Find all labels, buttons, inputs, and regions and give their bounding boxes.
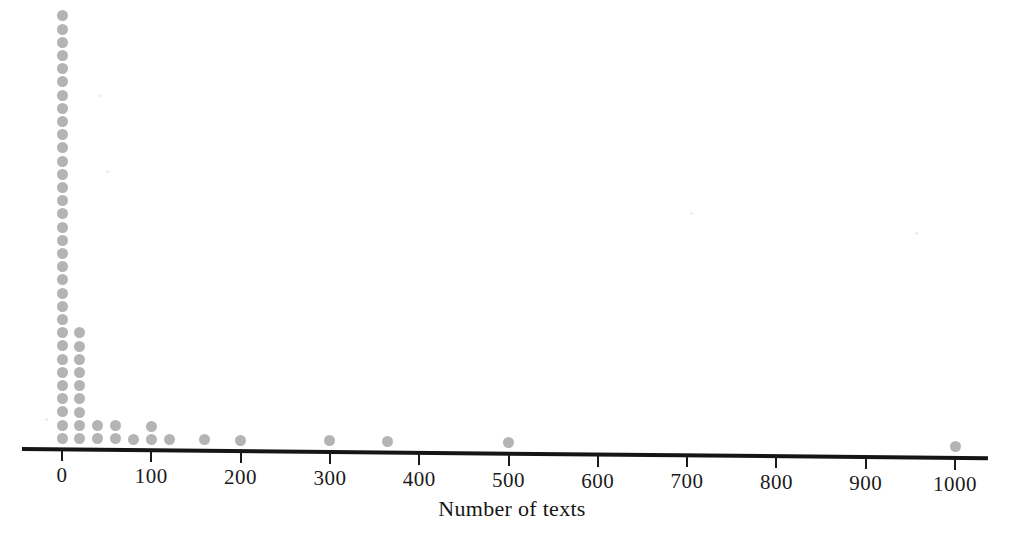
dotplot-figure: 01002003004005006007008009001000 Number … <box>0 0 1011 554</box>
scan-speck <box>690 212 693 215</box>
dot <box>57 103 68 114</box>
dot <box>235 435 246 446</box>
dot <box>110 420 121 431</box>
x-axis-tick <box>954 458 956 470</box>
dot <box>57 90 68 101</box>
x-axis-tick <box>240 451 242 463</box>
dot <box>382 436 393 447</box>
dot <box>74 327 85 338</box>
dot <box>57 420 68 431</box>
dot <box>57 222 68 233</box>
x-axis-tick-label: 200 <box>224 465 257 490</box>
x-axis-line <box>22 447 988 460</box>
dot <box>74 367 85 378</box>
x-axis-tick <box>418 453 420 465</box>
x-axis-tick <box>329 452 331 464</box>
dot <box>57 340 68 351</box>
scan-speck <box>106 170 109 173</box>
dot <box>57 116 68 127</box>
dot <box>57 10 68 21</box>
x-axis-tick-label: 100 <box>135 464 168 489</box>
scan-speck <box>45 418 48 421</box>
dot <box>57 50 68 61</box>
dot <box>57 63 68 74</box>
dot <box>199 434 210 445</box>
dot <box>57 156 68 167</box>
x-axis-tick-label: 300 <box>313 466 346 491</box>
scan-speck <box>915 232 918 235</box>
x-axis-tick <box>150 450 152 462</box>
x-axis-tick <box>686 455 688 467</box>
dot <box>128 434 139 445</box>
x-axis-tick-label: 1000 <box>933 472 977 497</box>
dot <box>324 435 335 446</box>
x-axis-tick-label: 800 <box>760 470 793 495</box>
x-axis-tick-label: 0 <box>57 463 68 488</box>
scan-speck <box>99 94 102 97</box>
dot <box>74 407 85 418</box>
dot <box>74 354 85 365</box>
dot <box>950 441 961 452</box>
x-axis-tick <box>865 457 867 469</box>
dot <box>57 327 68 338</box>
x-axis-tick <box>61 449 63 461</box>
dot <box>57 261 68 272</box>
dot <box>92 420 103 431</box>
dot <box>57 367 68 378</box>
dot <box>57 380 68 391</box>
dot <box>57 169 68 180</box>
x-axis-tick <box>775 456 777 468</box>
x-axis-tick-label: 700 <box>671 469 704 494</box>
dot <box>74 393 85 404</box>
dot <box>146 421 157 432</box>
dot <box>57 142 68 153</box>
dot <box>503 437 514 448</box>
dot <box>74 341 85 352</box>
dot <box>57 235 68 246</box>
dot <box>57 24 68 35</box>
dot <box>74 380 85 391</box>
dot <box>74 433 85 444</box>
dot <box>164 434 175 445</box>
x-axis-tick <box>597 455 599 467</box>
dot <box>57 182 68 193</box>
dot <box>57 76 68 87</box>
x-axis-tick <box>508 454 510 466</box>
dot <box>57 314 68 325</box>
dot <box>110 433 121 444</box>
dot <box>57 393 68 404</box>
dot <box>92 433 103 444</box>
x-axis-tick-label: 600 <box>581 469 614 494</box>
dot <box>57 129 68 140</box>
x-axis-title: Number of texts <box>438 496 585 522</box>
dot <box>57 406 68 417</box>
dot <box>57 354 68 365</box>
dot <box>57 208 68 219</box>
dot <box>57 37 68 48</box>
x-axis-tick-label: 400 <box>403 467 436 492</box>
dot <box>57 301 68 312</box>
dot <box>146 434 157 445</box>
dot <box>57 195 68 206</box>
dot <box>57 433 68 444</box>
dot <box>57 288 68 299</box>
x-axis-tick-label: 900 <box>849 471 882 496</box>
dot <box>57 274 68 285</box>
dot <box>74 420 85 431</box>
x-axis-tick-label: 500 <box>492 468 525 493</box>
dot <box>57 248 68 259</box>
